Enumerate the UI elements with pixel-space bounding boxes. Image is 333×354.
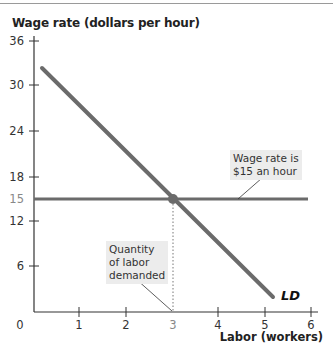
ld-curve-label: LD [281, 288, 300, 303]
qty-note-line: demanded [109, 269, 165, 282]
y-tick-labels: 36 30 24 18 15 12 6 0 [9, 34, 24, 332]
svg-text:30: 30 [9, 78, 24, 92]
qty-note-line: Quantity [109, 243, 165, 256]
wage-note-leader [238, 178, 262, 199]
svg-text:3: 3 [169, 318, 176, 332]
quantity-demanded-annotation: Quantity of labor demanded [106, 241, 168, 284]
svg-text:15: 15 [9, 192, 24, 206]
svg-text:36: 36 [9, 34, 24, 48]
svg-text:12: 12 [9, 214, 24, 228]
qty-note-line: of labor [109, 256, 165, 269]
svg-text:2: 2 [122, 318, 129, 332]
svg-text:1: 1 [75, 318, 82, 332]
svg-text:24: 24 [9, 124, 24, 138]
wage-note-line: $15 an hour [233, 165, 299, 178]
wage-rate-annotation: Wage rate is $15 an hour [230, 150, 302, 180]
svg-text:0: 0 [16, 318, 23, 332]
equilibrium-point [168, 194, 178, 204]
x-axis-title: Labor (workers) [220, 330, 323, 344]
svg-text:6: 6 [17, 259, 24, 273]
wage-note-line: Wage rate is [233, 152, 299, 165]
svg-text:18: 18 [9, 170, 24, 184]
